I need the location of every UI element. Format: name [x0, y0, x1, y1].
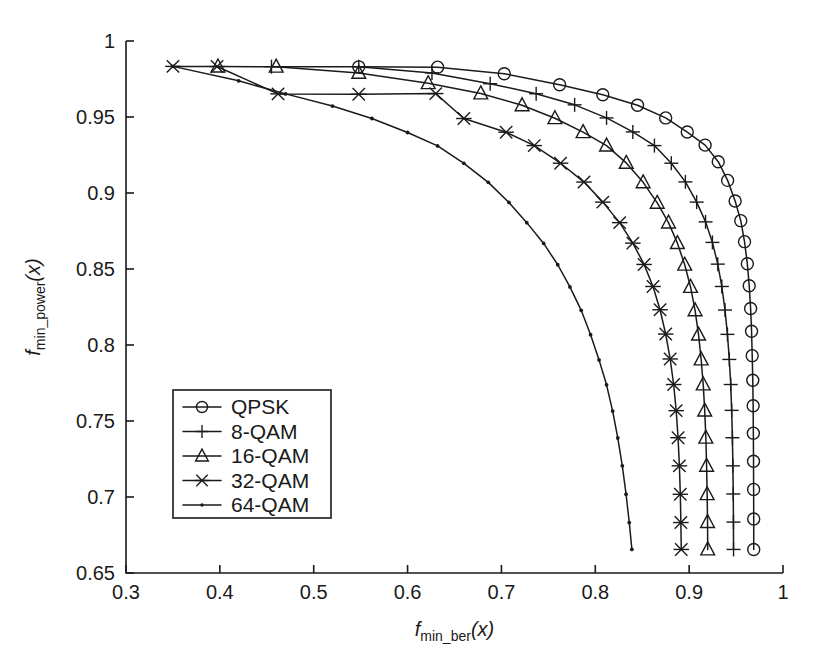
dot-glyph	[556, 263, 560, 267]
plus-marker	[725, 431, 739, 445]
dot-marker	[200, 503, 203, 506]
dot-glyph	[486, 180, 490, 184]
dot-marker	[589, 333, 593, 337]
dot-glyph	[620, 464, 624, 468]
dot-glyph	[579, 308, 583, 312]
dot-glyph	[200, 503, 203, 506]
y-tick-label: 0.85	[76, 258, 115, 280]
dot-glyph	[630, 548, 634, 552]
dot-marker	[597, 358, 601, 362]
dot-marker	[579, 308, 583, 312]
dot-glyph	[616, 436, 620, 440]
dot-marker	[237, 79, 241, 83]
dot-glyph	[284, 92, 288, 96]
dot-glyph	[542, 242, 546, 246]
y-axis-title: fmin_power(x)	[22, 258, 48, 355]
dot-marker	[620, 464, 624, 468]
x-tick-label: 0.5	[300, 581, 328, 603]
plus-marker	[600, 111, 614, 125]
dot-glyph	[507, 201, 511, 205]
dot-marker	[611, 409, 615, 413]
plus-marker	[483, 77, 497, 91]
y-tick-label: 0.95	[76, 106, 115, 128]
dot-marker	[462, 161, 466, 165]
plus-marker	[726, 487, 740, 501]
plus-marker	[690, 195, 704, 209]
dot-marker	[284, 92, 288, 96]
dot-glyph	[237, 79, 241, 83]
plus-marker	[724, 378, 738, 392]
dot-glyph	[406, 131, 410, 135]
plus-marker	[529, 87, 543, 101]
dot-marker	[525, 221, 529, 225]
plus-marker	[727, 542, 741, 556]
x-tick-label: 0.7	[488, 581, 516, 603]
dot-glyph	[370, 117, 374, 121]
dot-marker	[627, 521, 631, 525]
dot-marker	[624, 492, 628, 496]
dot-glyph	[462, 161, 466, 165]
triangle-marker	[548, 111, 562, 124]
dot-marker	[630, 548, 634, 552]
asterisk-marker	[498, 126, 513, 138]
plus-marker	[725, 403, 739, 417]
x-tick-label: 0.6	[394, 581, 422, 603]
dot-glyph	[525, 221, 529, 225]
y-tick-label: 0.9	[87, 182, 115, 204]
asterisk-marker	[652, 304, 668, 316]
dot-marker	[406, 131, 410, 135]
chart-canvas: 0.30.40.50.60.70.80.910.650.70.750.80.85…	[0, 0, 817, 670]
y-tick-label: 0.8	[87, 334, 115, 356]
y-tick-label: 0.65	[76, 562, 115, 584]
axis-title-subscript: min_power	[32, 281, 48, 350]
plus-marker	[711, 257, 725, 271]
y-tick-label: 1	[104, 30, 115, 52]
dot-marker	[507, 201, 511, 205]
x-tick-label: 1	[777, 581, 788, 603]
dot-glyph	[597, 358, 601, 362]
plus-marker	[726, 515, 740, 529]
asterisk-marker	[612, 216, 628, 228]
asterisk-marker	[658, 328, 674, 340]
dot-glyph	[611, 409, 615, 413]
axis-title-subscript: min_ber	[420, 628, 471, 644]
triangle-glyph	[548, 111, 562, 124]
dot-marker	[486, 180, 490, 184]
series-path	[271, 67, 733, 550]
dot-marker	[568, 285, 572, 289]
legend-label: 16-QAM	[231, 444, 309, 467]
dot-glyph	[624, 492, 628, 496]
dot-marker	[616, 436, 620, 440]
dot-marker	[556, 263, 560, 267]
x-tick-label: 0.3	[112, 581, 140, 603]
figure-container: 0.30.40.50.60.70.80.910.650.70.750.80.85…	[0, 0, 817, 670]
x-tick-label: 0.9	[675, 581, 703, 603]
triangle-marker	[619, 155, 633, 168]
dot-glyph	[436, 144, 440, 148]
dot-glyph	[605, 383, 609, 387]
chart-legend[interactable]: QPSK8-QAM16-QAM32-QAM64-QAM	[173, 390, 331, 518]
x-tick-label: 0.8	[581, 581, 609, 603]
legend-label: 8-QAM	[231, 420, 298, 443]
plus-marker	[720, 327, 734, 341]
asterisk-marker	[625, 237, 641, 249]
x-tick-label: 0.4	[206, 581, 234, 603]
plus-marker	[678, 175, 692, 189]
plus-marker	[705, 235, 719, 249]
dot-marker	[436, 144, 440, 148]
plus-marker	[626, 125, 640, 139]
axis-title-arg: (x)	[471, 618, 494, 640]
asterisk-marker	[351, 88, 367, 100]
dot-marker	[331, 104, 335, 108]
asterisk-marker	[595, 196, 611, 208]
y-tick-label: 0.75	[76, 410, 115, 432]
legend-label: QPSK	[231, 395, 289, 418]
dot-glyph	[589, 333, 593, 337]
dot-marker	[370, 117, 374, 121]
plus-marker	[568, 98, 582, 112]
dot-marker	[605, 383, 609, 387]
plus-marker	[699, 215, 713, 229]
legend-label: 32-QAM	[231, 469, 309, 492]
dot-marker	[542, 242, 546, 246]
series-8-qam	[264, 60, 740, 557]
